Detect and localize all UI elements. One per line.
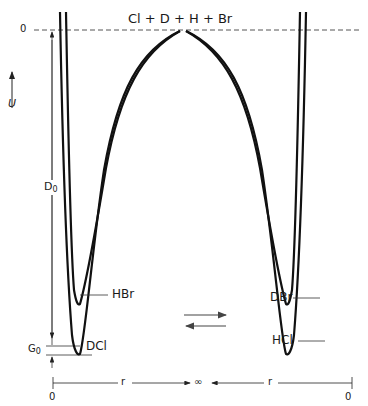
- potential-energy-diagram: Cl + D + H + Br 0 U D0 G0 HBr DCl DBr HC…: [0, 0, 368, 406]
- zero-energy-label: 0: [20, 24, 26, 34]
- hbr-label: HBr: [112, 288, 134, 300]
- dissociation-products-label: Cl + D + H + Br: [128, 12, 232, 25]
- g0-subscript: 0: [36, 347, 41, 356]
- right-zero-label: 0: [345, 392, 351, 402]
- energy-axis-label: U: [8, 98, 16, 109]
- g0-letter: G: [28, 343, 36, 354]
- left-r-label: r: [121, 377, 125, 387]
- right-r-label: r: [268, 377, 272, 387]
- hbr-curve: [66, 12, 180, 304]
- dbr-label: DBr: [270, 291, 292, 303]
- dbr-curve: [186, 12, 300, 304]
- hcl-label: HCl: [272, 334, 293, 346]
- g0-label: G0: [28, 344, 41, 356]
- left-zero-label: 0: [49, 392, 55, 402]
- diagram-graphics: [0, 0, 368, 406]
- d0-label: D0: [44, 180, 58, 195]
- infinity-label: ∞: [194, 377, 202, 387]
- d0-subscript: 0: [52, 185, 57, 194]
- dcl-label: DCl: [86, 340, 107, 352]
